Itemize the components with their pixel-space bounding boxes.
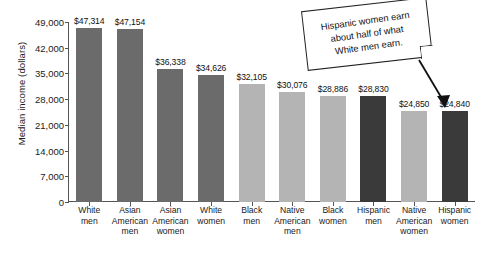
- bar: [157, 69, 183, 202]
- x-axis-category-label: AsianAmericanmen: [110, 205, 151, 237]
- y-axis-tick-label: 14,000: [20, 145, 64, 156]
- bar-value-label: $34,626: [196, 63, 226, 73]
- x-axis-label-line: women: [191, 216, 232, 227]
- x-axis-category-label: Whitewomen: [191, 205, 232, 226]
- bar: [117, 29, 143, 202]
- x-axis-label-line: White: [69, 205, 110, 216]
- bar-value-label: $36,338: [155, 57, 185, 67]
- x-axis-category-label: Blackmen: [231, 205, 272, 226]
- x-axis-category-label: Hispanicwomen: [434, 205, 475, 226]
- x-axis-label-line: women: [313, 216, 354, 227]
- x-axis-label-line: women: [434, 216, 475, 227]
- x-axis-category-label: Hispanicmen: [353, 205, 394, 226]
- bar-slot: $24,840: [434, 22, 475, 202]
- bar-value-label: $32,105: [237, 72, 267, 82]
- bar: [401, 111, 427, 202]
- bar-value-label: $47,314: [74, 16, 104, 26]
- y-axis-tick-label: 21,000: [20, 119, 64, 130]
- x-axis-category-label: NativeAmericanmen: [272, 205, 313, 237]
- x-axis-label-line: American: [394, 216, 435, 227]
- y-axis-tick-label: 28,000: [20, 94, 64, 105]
- x-axis-label-line: women: [150, 226, 191, 237]
- bar: [198, 75, 224, 202]
- bar-slot: $32,105: [231, 22, 272, 202]
- y-axis-tick-label: 7,000: [20, 171, 64, 182]
- x-axis-category-label: Blackwomen: [313, 205, 354, 226]
- bar: [320, 96, 346, 202]
- y-axis-tick-label: 35,000: [20, 68, 64, 79]
- x-axis-label-line: Asian: [150, 205, 191, 216]
- x-axis-label-line: Black: [231, 205, 272, 216]
- x-axis-label-line: Hispanic: [353, 205, 394, 216]
- bar: [360, 96, 386, 202]
- bar-chart-figure: Median income (dollars) 49,00042,00035,0…: [0, 0, 483, 254]
- x-axis-label-line: Native: [272, 205, 313, 216]
- y-axis-tick-label: 49,000: [20, 17, 64, 28]
- bar-slot: $47,154: [110, 22, 151, 202]
- x-axis-category-labels: WhitemenAsianAmericanmenAsianAmericanwom…: [69, 205, 475, 249]
- x-axis-label-line: White: [191, 205, 232, 216]
- y-axis-tick-label: 42,000: [20, 42, 64, 53]
- x-axis-category-label: NativeAmericanwomen: [394, 205, 435, 237]
- bar: [279, 92, 305, 202]
- x-axis-label-line: Asian: [110, 205, 151, 216]
- bar-slot: $47,314: [69, 22, 110, 202]
- x-axis-label-line: men: [353, 216, 394, 227]
- bar-value-label: $30,076: [277, 80, 307, 90]
- y-axis-tick-mark: [65, 202, 69, 203]
- bar: [76, 28, 102, 202]
- x-axis-category-label: Whitemen: [69, 205, 110, 226]
- x-axis-label-line: American: [272, 216, 313, 227]
- x-axis-label-line: women: [394, 226, 435, 237]
- bar-value-label: $47,154: [115, 17, 145, 27]
- x-axis-label-line: Native: [394, 205, 435, 216]
- x-axis-label-line: men: [231, 216, 272, 227]
- bar-value-label: $28,830: [358, 84, 388, 94]
- bar: [442, 111, 468, 202]
- bar-slot: $34,626: [191, 22, 232, 202]
- bar-slot: $36,338: [150, 22, 191, 202]
- y-axis-tick-label: 0: [20, 197, 64, 208]
- x-axis-label-line: Black: [313, 205, 354, 216]
- x-axis-label-line: men: [272, 226, 313, 237]
- x-axis-label-line: American: [150, 216, 191, 227]
- bar: [239, 84, 265, 202]
- x-axis-label-line: men: [110, 226, 151, 237]
- bar-value-label: $24,840: [440, 99, 470, 109]
- bar-value-label: $24,850: [399, 99, 429, 109]
- x-axis-label-line: men: [69, 216, 110, 227]
- bar-value-label: $28,886: [318, 84, 348, 94]
- x-axis-label-line: Hispanic: [434, 205, 475, 216]
- source-note: [22, 250, 472, 254]
- x-axis-label-line: American: [110, 216, 151, 227]
- x-axis-category-label: AsianAmericanwomen: [150, 205, 191, 237]
